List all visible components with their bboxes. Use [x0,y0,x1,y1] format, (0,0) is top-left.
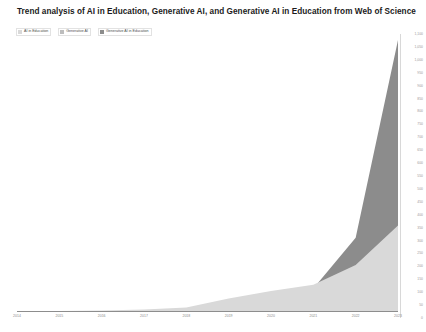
x-axis-tick-label: 2015 [55,314,63,319]
chart-container: Trend analysis of AI in Education, Gener… [0,0,426,332]
legend-swatch-icon [18,30,22,34]
y-axis-tick-label: 200 [417,264,423,268]
x-axis-tick-label: 2014 [13,314,21,319]
y-axis-tick-label: 50 [419,303,423,307]
x-axis-tick-label: 2021 [309,314,317,319]
y-axis-tick-label: 1,100 [415,32,424,36]
y-axis-tick-label: 950 [417,71,423,75]
x-axis-tick-label: 2016 [98,314,106,319]
page-title: Trend analysis of AI in Education, Gener… [17,7,416,16]
y-axis-tick-label: 150 [417,277,423,281]
y-axis-tick-label: 650 [417,148,423,152]
y-axis-tick-label: 1,000 [415,58,424,62]
y-axis-tick-label: 750 [417,122,423,126]
y-axis-tick-label: 900 [417,84,423,88]
legend-item-label: AI in Education [24,29,48,34]
plot-area [17,40,398,312]
chart-legend: AI in Education Generative AI Generative… [16,27,152,36]
x-axis-tick-label: 2022 [352,314,360,319]
y-axis-line [400,34,401,318]
legend-item-generative-ai-in-education[interactable]: Generative AI in Education [98,28,152,36]
y-axis-tick-label: 850 [417,97,423,101]
legend-item-label: Generative AI in Education [106,29,149,34]
y-axis: 1,1001,0501,0009509008508007507006506005… [400,34,426,318]
y-axis-tick-label: 350 [417,226,423,230]
x-axis-tick-label: 2017 [140,314,148,319]
y-axis-tick-label: 100 [417,290,423,294]
y-axis-tick-label: 450 [417,200,423,204]
y-axis-tick-label: 700 [417,135,423,139]
x-axis-line [17,311,398,312]
y-axis-tick-label: 1,050 [415,45,424,49]
y-axis-tick-label: 300 [417,239,423,243]
legend-swatch-icon [100,30,104,34]
x-axis-labels: 2014201520162017201820192020202120222023 [17,314,398,324]
y-axis-tick-label: 500 [417,187,423,191]
y-axis-tick-label: 600 [417,161,423,165]
x-axis-tick-label: 2018 [182,314,190,319]
y-axis-tick-label: 400 [417,213,423,217]
legend-item-generative-ai[interactable]: Generative AI [58,28,91,36]
x-axis-tick-label: 2019 [225,314,233,319]
legend-swatch-icon [60,30,64,34]
area-chart-svg [17,40,398,312]
y-axis-tick-label: 250 [417,251,423,255]
y-axis-tick-label: 800 [417,109,423,113]
x-axis-tick-label: 2023 [394,314,402,319]
legend-item-ai-in-education[interactable]: AI in Education [16,28,51,36]
area-series-3 [17,40,398,312]
legend-item-label: Generative AI [66,29,88,34]
x-axis-tick-label: 2020 [267,314,275,319]
y-axis-tick-label: 0 [421,316,423,320]
y-axis-tick-label: 550 [417,174,423,178]
